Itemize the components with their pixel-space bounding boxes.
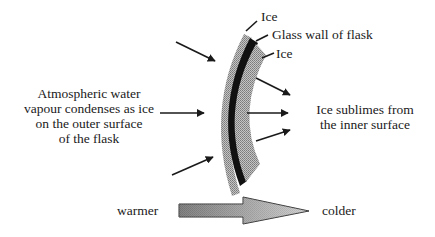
label-ice-inner: Ice <box>276 46 292 61</box>
arrow-in-top <box>176 42 215 61</box>
condensation-line-3: on the outer surface <box>14 116 164 131</box>
sublimation-line-2: the inner surface <box>305 117 425 132</box>
condensation-line-1: Atmospheric water <box>14 86 164 101</box>
leader-glass <box>256 35 268 41</box>
label-colder: colder <box>322 203 356 218</box>
label-warmer: warmer <box>117 203 158 218</box>
arrow-out-bottom <box>256 130 290 141</box>
label-ice-outer: Ice <box>261 9 277 24</box>
sublimation-description: Ice sublimes from the inner surface <box>305 102 425 132</box>
label-glass-wall: Glass wall of flask <box>272 27 373 42</box>
condensation-description: Atmospheric water vapour condenses as ic… <box>14 86 164 146</box>
arrow-out-top <box>256 78 290 95</box>
condensation-line-4: of the flask <box>14 131 164 146</box>
leader-ice-outer <box>246 21 257 31</box>
sublimation-line-1: Ice sublimes from <box>305 102 425 117</box>
condensation-line-2: vapour condenses as ice <box>14 101 164 116</box>
arrow-in-bottom <box>172 157 213 175</box>
